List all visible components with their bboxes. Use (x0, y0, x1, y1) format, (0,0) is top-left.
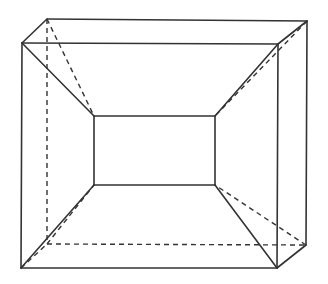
visible-edge-front-bottom-right-to-back-bottom-right (277, 245, 306, 268)
visible-edge-front-bottom-left-to-inner-bottom-left (21, 185, 94, 268)
visible-edge-front-top-right-to-front-bottom-right (277, 44, 278, 268)
hidden-edge-back-top-left-to-inner-top-left (47, 19, 94, 116)
geometry-diagram (0, 0, 328, 284)
hidden-edge-back-bottom-right-to-inner-bottom-right (215, 185, 306, 245)
visible-edge-front-top-right-to-back-top-right (278, 21, 307, 44)
visible-edge-front-bottom-right-to-inner-bottom-right (215, 185, 277, 268)
visible-edge-front-top-left-to-inner-top-left (22, 43, 94, 116)
visible-edge-back-top-right-to-back-bottom-right (306, 21, 307, 245)
hidden-edge-back-top-right-to-inner-top-right (215, 21, 307, 116)
hidden-edges (21, 19, 307, 268)
hidden-edge-back-bottom-left-to-back-bottom-right (47, 244, 306, 245)
visible-edge-front-top-left-to-back-top-left (22, 19, 47, 43)
visible-edge-front-top-left-to-front-top-right (22, 43, 278, 44)
visible-edge-back-top-left-to-back-top-right (47, 19, 307, 21)
visible-edge-front-top-right-to-inner-top-right (215, 44, 278, 116)
visible-edge-front-bottom-left-to-front-top-left (21, 43, 22, 268)
visible-edges (21, 19, 307, 268)
